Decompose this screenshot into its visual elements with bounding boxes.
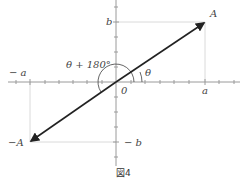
label-A: A — [209, 8, 217, 19]
vector-diagram: A −A b − b a − a 0 θ θ + 180° 図4 — [0, 0, 251, 181]
vector-neg-A — [31, 82, 116, 141]
label-origin: 0 — [121, 85, 128, 96]
label-neg-a: − a — [9, 67, 27, 78]
figure-caption: 図4 — [116, 168, 131, 178]
label-theta: θ — [145, 67, 151, 78]
vector-A — [116, 23, 204, 82]
label-neg-A: −A — [8, 137, 24, 148]
label-theta-plus-180: θ + 180° — [66, 59, 111, 70]
label-b: b — [106, 16, 112, 27]
label-neg-b: − b — [124, 137, 142, 148]
theta-arc — [140, 72, 142, 82]
label-a: a — [202, 85, 208, 96]
